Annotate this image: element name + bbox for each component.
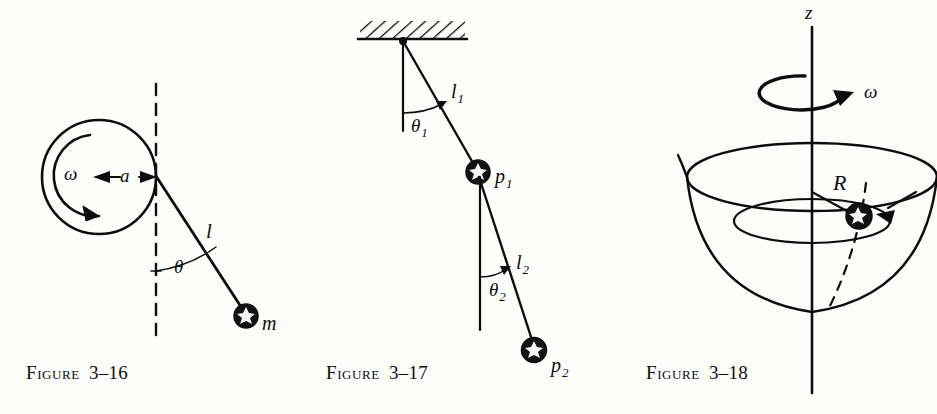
- label-mass-m: m: [262, 312, 276, 334]
- label-l1: l1: [451, 80, 464, 106]
- caption-word: Figure: [646, 362, 700, 383]
- label-omega: ω: [64, 163, 77, 184]
- paraboloid-left-lip: [678, 155, 687, 177]
- label-l2: l2: [516, 251, 530, 277]
- label-radius-a: a: [120, 165, 130, 186]
- figure-3-17-caption: Figure3–17: [326, 362, 428, 384]
- figure-3-17-drawing: l1 θ1 p1 l2 θ2 p2: [300, 0, 620, 414]
- figure-3-16-drawing: ω a l θ m: [0, 0, 320, 414]
- label-z-axis: z: [804, 2, 813, 23]
- omega-rotation-ellipse: [759, 76, 842, 110]
- ceiling-hatched-block: [360, 21, 465, 38]
- label-radius-R: R: [832, 170, 847, 195]
- caption-word: Figure: [26, 362, 80, 383]
- label-angle-theta: θ: [174, 256, 183, 277]
- label-theta1: θ1: [411, 115, 428, 140]
- figure-3-18-caption: Figure3–18: [646, 362, 748, 384]
- caption-number: 3–18: [709, 362, 748, 383]
- theta1-angle-arc: [403, 104, 442, 113]
- label-theta2: θ2: [489, 279, 506, 304]
- caption-word: Figure: [326, 362, 380, 383]
- figure-3-18-drawing: z ω R: [620, 0, 937, 414]
- figure-3-16-panel: ω a l θ m Figure3–16: [0, 0, 320, 414]
- theta-angle-arc: [156, 247, 216, 271]
- figure-plate: ω a l θ m Figure3–16: [0, 0, 937, 414]
- label-p2: p2: [549, 354, 569, 380]
- bead-pointer-arrowhead: [876, 210, 895, 224]
- radius-a-arrowhead-right: [140, 171, 157, 183]
- figure-3-16-caption: Figure3–16: [26, 362, 128, 384]
- pendulum-rod: [156, 176, 245, 313]
- label-p1: p1: [493, 165, 513, 191]
- omega-rotation-arrowhead: [83, 206, 99, 221]
- figure-3-17-panel: l1 θ1 p1 l2 θ2 p2 Figure3–17: [300, 0, 620, 414]
- label-length-l: l: [206, 219, 212, 243]
- paraboloid-left-wall: [687, 177, 812, 312]
- label-omega: ω: [864, 81, 877, 102]
- caption-number: 3–17: [389, 362, 428, 383]
- radius-a-arrowhead-left: [93, 171, 110, 183]
- paraboloid-right-wall: [812, 177, 937, 312]
- caption-number: 3–16: [89, 362, 128, 383]
- figure-3-18-panel: z ω R Figure3–18: [620, 0, 937, 414]
- bead-pointer-arrow-shaft: [888, 192, 916, 208]
- lower-rod-l2: [479, 177, 533, 343]
